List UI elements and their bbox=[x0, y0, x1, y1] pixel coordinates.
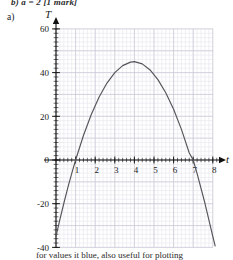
footer-note: for values it blue, also useful for plot… bbox=[36, 250, 183, 260]
y-tick-label: 60 bbox=[40, 24, 50, 34]
x-tick-label: 1 bbox=[75, 165, 80, 175]
x-tick-label: 4 bbox=[134, 165, 139, 175]
y-axis-tick-labels: -40-200204060 bbox=[37, 24, 50, 253]
data-curve bbox=[56, 62, 215, 246]
x-tick-label: 6 bbox=[173, 165, 178, 175]
curve-path bbox=[56, 62, 215, 246]
x-tick-label: 8 bbox=[212, 165, 217, 175]
x-tick-label: 5 bbox=[153, 165, 158, 175]
y-axis-label: T bbox=[45, 8, 52, 20]
y-tick-label: 40 bbox=[40, 68, 50, 78]
y-tick-label: -20 bbox=[37, 199, 49, 209]
y-tick-label: 0 bbox=[45, 155, 50, 165]
x-tick-label: 3 bbox=[114, 165, 119, 175]
y-tick-label: 20 bbox=[40, 112, 50, 122]
x-tick-label: 2 bbox=[94, 165, 99, 175]
x-axis-label: t bbox=[226, 153, 230, 165]
axis-lines bbox=[44, 17, 226, 248]
